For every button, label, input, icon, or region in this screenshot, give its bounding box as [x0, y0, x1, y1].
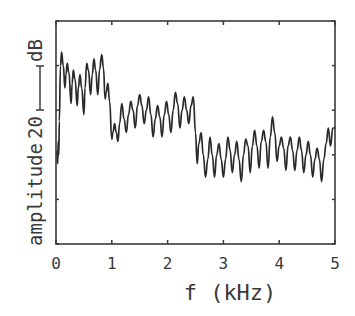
y-axis-title: amplitude: [24, 143, 46, 246]
x-tick-label-4: 4: [274, 254, 284, 273]
scale-bar: 20 dB: [24, 39, 46, 139]
scale-bar-value: 20: [24, 116, 46, 139]
x-tick-label-3: 3: [219, 254, 229, 273]
x-tick-label-2: 2: [163, 254, 173, 273]
x-tick-label-5: 5: [330, 254, 340, 273]
x-tick-label-1: 1: [107, 254, 117, 273]
x-axis-title: f (kHz): [184, 280, 277, 305]
scale-bar-unit: dB: [24, 39, 46, 62]
x-tick-label-0: 0: [51, 254, 61, 273]
x-tick-labels: 012345: [51, 254, 340, 273]
series-line-spectrum: [57, 52, 335, 181]
spectrum-chart: 012345 20 dB amplitude f (kHz): [0, 0, 355, 316]
